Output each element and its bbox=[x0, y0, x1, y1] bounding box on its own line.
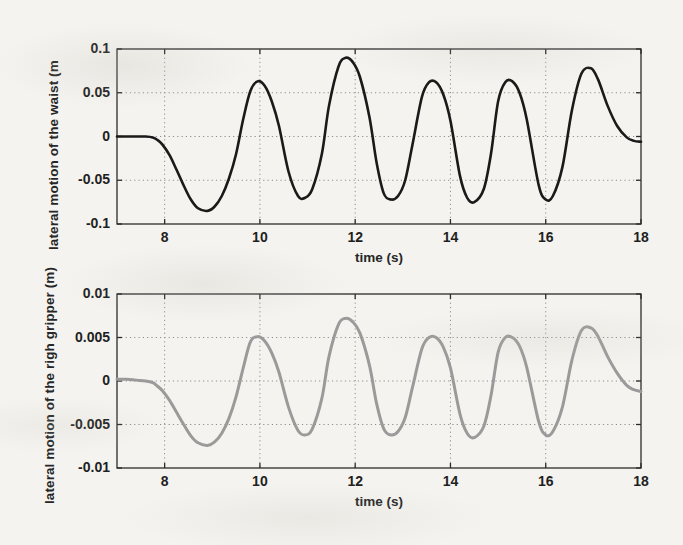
y-tick-label: 0.05 bbox=[83, 84, 110, 100]
y-tick-label: 0 bbox=[102, 372, 110, 388]
chart-panel-gripper: lateral motion of the righ gripper (m) t… bbox=[0, 272, 683, 545]
x-tick-label: 14 bbox=[425, 229, 475, 245]
chart-panel-waist: lateral motion of the waist (m time (s) … bbox=[0, 0, 683, 272]
x-tick-label: 10 bbox=[235, 229, 285, 245]
x-tick-label: 12 bbox=[330, 473, 380, 489]
x-tick-label: 8 bbox=[140, 473, 190, 489]
y-tick-label: 0.01 bbox=[83, 285, 110, 301]
x-tick-label: 18 bbox=[616, 473, 666, 489]
y-tick-label: -0.1 bbox=[86, 215, 110, 231]
x-tick-label: 10 bbox=[235, 473, 285, 489]
y-tick-label: -0.05 bbox=[78, 171, 110, 187]
x-tick-label: 14 bbox=[425, 473, 475, 489]
x-tick-label: 16 bbox=[521, 229, 571, 245]
y-tick-label: 0 bbox=[102, 128, 110, 144]
y-tick-label: -0.005 bbox=[70, 416, 110, 432]
y-tick-label: 0.1 bbox=[91, 40, 110, 56]
x-tick-label: 12 bbox=[330, 229, 380, 245]
x-tick-label: 8 bbox=[140, 229, 190, 245]
plot-area-gripper bbox=[0, 272, 683, 545]
x-tick-label: 18 bbox=[616, 229, 666, 245]
y-tick-label: -0.01 bbox=[78, 459, 110, 475]
y-tick-label: 0.005 bbox=[75, 329, 110, 345]
x-tick-label: 16 bbox=[521, 473, 571, 489]
